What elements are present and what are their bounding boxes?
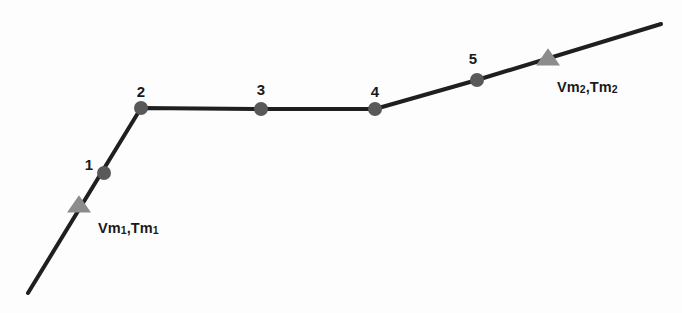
node-marker-5 xyxy=(470,73,484,87)
node-number-label-5: 5 xyxy=(469,51,477,66)
marker-text-label-2: Vm2,Tm2 xyxy=(557,80,618,95)
node-number-label-1: 1 xyxy=(85,157,93,172)
polyline-canvas xyxy=(0,0,682,313)
node-number-label-3: 3 xyxy=(257,82,265,97)
node-number-label-4: 4 xyxy=(371,84,379,99)
node-marker-1 xyxy=(97,166,111,180)
node-marker-2 xyxy=(134,101,148,115)
diagram-figure: 12345 Vm1,Tm1Vm2,Tm2 xyxy=(0,0,682,313)
node-marker-group xyxy=(97,73,484,180)
node-number-label-2: 2 xyxy=(137,84,145,99)
main-polyline xyxy=(28,24,661,293)
node-marker-3 xyxy=(254,102,268,116)
path-group xyxy=(28,24,661,293)
marker-text-label-1: Vm1,Tm1 xyxy=(98,221,159,236)
node-marker-4 xyxy=(368,102,382,116)
triangle-marker-group xyxy=(67,48,560,212)
